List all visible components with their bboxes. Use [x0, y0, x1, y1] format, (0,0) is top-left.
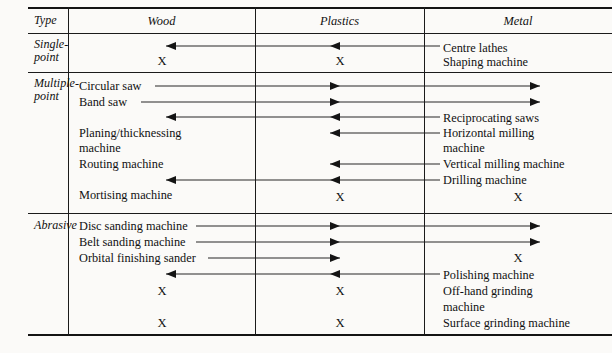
table-bottom-border — [28, 334, 612, 336]
materials-processes-table: Type Wood Plastics Metal Single- point X… — [0, 0, 612, 353]
table-top-border — [28, 7, 612, 9]
entry-band-saw: Band saw — [79, 95, 127, 110]
entry-offhand-line1: Off-hand grinding — [443, 284, 533, 299]
entry-shaping-machine: Shaping machine — [443, 55, 528, 70]
entry-reciprocating-saws: Reciprocating saws — [443, 111, 539, 126]
entry-offhand-line2: machine — [443, 300, 485, 315]
arrow-band-saw — [141, 98, 540, 106]
column-divider-wood — [255, 7, 256, 334]
mark-multiple-plastics-x: X — [330, 190, 350, 205]
arrow-belt-sanding — [196, 238, 540, 246]
arrow-disc-sanding — [196, 222, 540, 230]
arrow-orbital-sander — [208, 254, 340, 262]
mark-abrasive-metal-x: X — [508, 251, 528, 266]
mark-abrasive-plastics-x-2: X — [330, 316, 350, 331]
section-label-abrasive: Abrasive — [34, 219, 77, 233]
mark-single-plastics-x: X — [330, 54, 350, 69]
mark-abrasive-wood-x-2: X — [152, 316, 172, 331]
section-label-multiple-point-line2: point — [34, 90, 59, 104]
column-divider-plastics — [424, 7, 425, 334]
header-separator — [28, 33, 612, 34]
entry-belt-sanding: Belt sanding machine — [79, 235, 186, 250]
entry-surface-grinding: Surface grinding machine — [443, 316, 570, 331]
column-header-wood: Wood — [68, 14, 255, 28]
column-header-type: Type — [34, 14, 57, 28]
entry-planing-line2: machine — [79, 141, 121, 156]
entry-polishing-machine: Polishing machine — [443, 268, 534, 283]
entry-orbital-sander: Orbital finishing sander — [79, 251, 196, 266]
mark-multiple-metal-x: X — [508, 190, 528, 205]
entry-centre-lathes: Centre lathes — [443, 41, 508, 56]
entry-drilling-machine: Drilling machine — [443, 173, 527, 188]
column-header-metal: Metal — [424, 14, 612, 28]
entry-circular-saw: Circular saw — [79, 79, 142, 94]
arrow-centre-lathes — [166, 42, 440, 50]
arrow-circular-saw — [155, 82, 540, 90]
section-label-single-point-line2: point — [34, 51, 59, 65]
entry-mortising-machine: Mortising machine — [79, 188, 172, 203]
arrow-polishing-machine — [166, 270, 440, 278]
column-header-plastics: Plastics — [255, 14, 424, 28]
entry-horizontal-line1: Horizontal milling — [443, 126, 534, 141]
entry-disc-sanding: Disc sanding machine — [79, 219, 188, 234]
entry-horizontal-line2: machine — [443, 141, 485, 156]
row-separator-single — [28, 72, 612, 73]
row-separator-multiple — [28, 213, 612, 214]
column-divider-type — [68, 7, 69, 336]
arrow-reciprocating-saws — [166, 113, 440, 121]
entry-planing-line1: Planing/thicknessing — [79, 126, 181, 141]
mark-abrasive-wood-x-1: X — [152, 284, 172, 299]
mark-single-wood-x: X — [152, 54, 172, 69]
entry-routing-machine: Routing machine — [79, 157, 163, 172]
mark-abrasive-plastics-x-1: X — [330, 284, 350, 299]
arrow-drilling-machine — [166, 176, 440, 184]
entry-vertical-milling: Vertical milling machine — [443, 157, 565, 172]
